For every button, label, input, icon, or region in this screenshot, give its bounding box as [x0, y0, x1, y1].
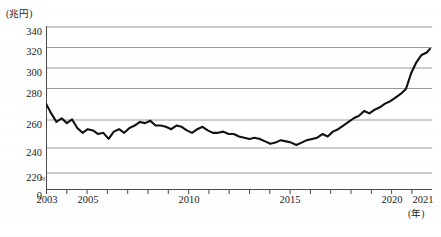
x-tick-2020: 2020 — [382, 194, 403, 206]
axis-break-icon: ≈ — [40, 175, 46, 183]
x-tick-2021: 2021 — [413, 194, 434, 206]
x-tick-2005: 2005 — [78, 194, 99, 206]
gridlines — [46, 27, 432, 173]
x-axis-unit-label: (年) — [408, 206, 424, 220]
data-series-line — [46, 49, 430, 145]
plot-area — [46, 26, 432, 190]
y-tick-280: 280 — [16, 89, 42, 99]
x-tick-2010: 2010 — [179, 194, 200, 206]
y-tick-300: 300 — [16, 68, 42, 78]
x-tick-2015: 2015 — [280, 194, 301, 206]
y-tick-240: 240 — [16, 148, 42, 158]
y-tick-220: 220 — [16, 173, 42, 183]
x-tick-2003: 2003 — [37, 194, 58, 206]
chart-figure: (兆円) 340 320 300 280 260 240 220 0 ≈ — [0, 0, 441, 237]
y-tick-260: 260 — [16, 120, 42, 130]
y-tick-340: 340 — [16, 27, 42, 37]
axis-lines — [46, 26, 432, 190]
chart-svg — [46, 26, 432, 196]
x-axis-tick-labels: 2003 2005 2010 2015 2020 2021 — [0, 194, 441, 210]
y-tick-320: 320 — [16, 47, 42, 57]
